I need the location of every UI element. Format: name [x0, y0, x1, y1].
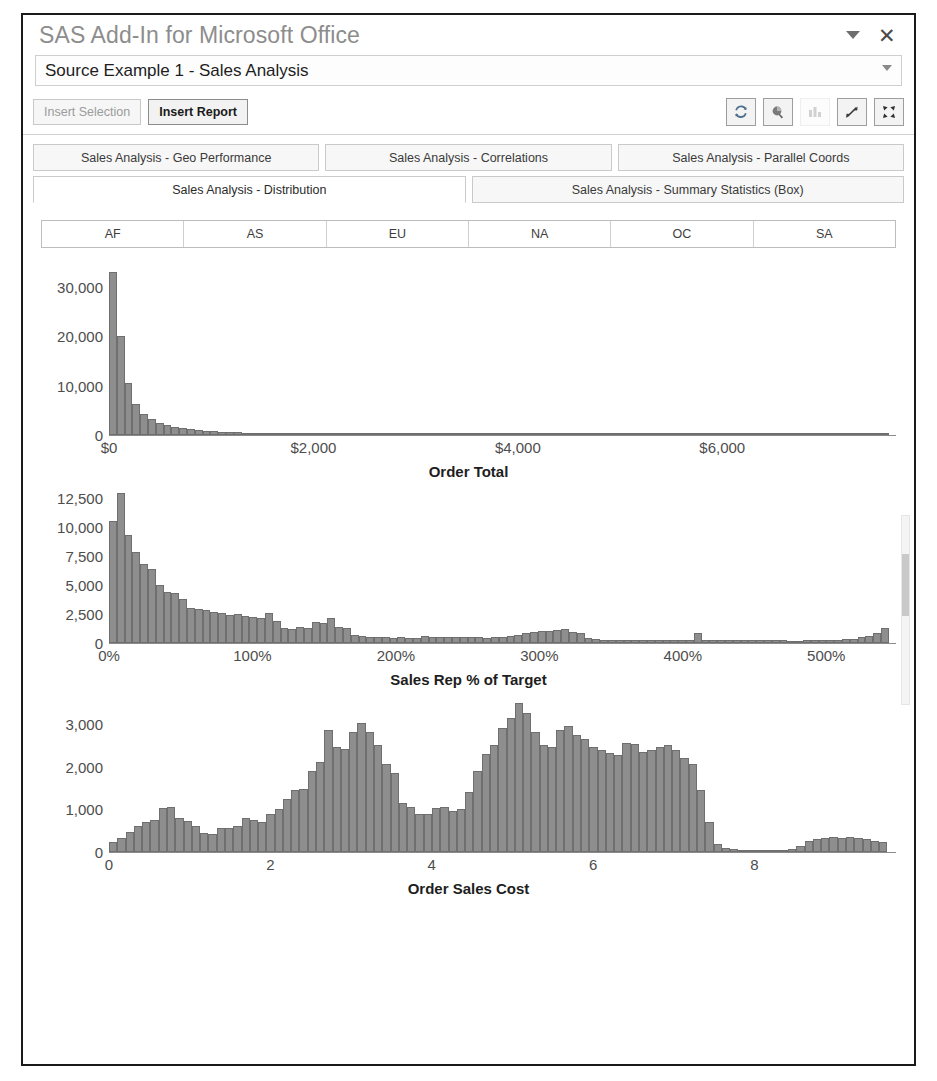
source-selector[interactable]: Source Example 1 - Sales Analysis	[35, 55, 902, 86]
x-axis-labels: 0%100%200%300%400%500%	[23, 647, 914, 669]
x-axis-title: Order Sales Cost	[23, 880, 914, 897]
histogram-bar	[225, 828, 233, 852]
tab-correlations[interactable]: Sales Analysis - Correlations	[325, 144, 611, 171]
region-button-eu[interactable]: EU	[327, 221, 469, 247]
region-button-oc[interactable]: OC	[611, 221, 753, 247]
histogram-bar	[296, 627, 304, 643]
histogram-bar	[631, 744, 639, 852]
y-axis-labels: 010,00020,00030,000	[23, 262, 109, 435]
histogram-bar	[514, 635, 522, 643]
histogram-bar	[299, 789, 307, 852]
insert-report-button[interactable]: Insert Report	[148, 99, 248, 125]
histogram-bar	[308, 771, 316, 852]
histogram-bar	[179, 428, 187, 435]
y-axis-tick: 30,000	[57, 278, 103, 295]
histogram-bar	[359, 636, 367, 643]
x-axis-tick: $2,000	[290, 439, 336, 456]
histogram-bar	[879, 842, 887, 852]
x-axis-tick: $6,000	[699, 439, 745, 456]
histogram-bar	[357, 723, 365, 852]
histogram-bar	[156, 423, 164, 435]
histogram-bar	[275, 809, 283, 852]
histogram-bar	[250, 820, 258, 852]
y-axis-tick: 7,500	[65, 547, 103, 564]
expand-diagonal-icon[interactable]	[837, 98, 867, 126]
histogram-bar	[171, 593, 179, 643]
histogram-bar	[266, 814, 274, 852]
sas-addin-window: SAS Add-In for Microsoft Office ✕ Source…	[21, 13, 916, 1066]
histogram-bar	[540, 745, 548, 852]
histogram-bar	[125, 535, 133, 643]
histogram-bar	[132, 404, 140, 435]
histogram-bar	[257, 618, 265, 643]
x-axis-tick: 100%	[233, 647, 271, 664]
tab-distribution[interactable]: Sales Analysis - Distribution	[33, 176, 466, 203]
close-icon[interactable]: ✕	[870, 20, 904, 50]
histogram-bar	[333, 747, 341, 852]
x-axis-tick: $0	[101, 439, 118, 456]
region-button-na[interactable]: NA	[469, 221, 611, 247]
histogram-bar	[349, 732, 357, 852]
histogram-bar	[639, 752, 647, 852]
histogram-bar	[714, 844, 722, 852]
histogram-bar	[366, 732, 374, 852]
chevron-down-icon[interactable]	[836, 20, 870, 50]
histogram-bar	[341, 749, 349, 852]
histogram-bar	[148, 569, 156, 643]
histogram-bar	[865, 636, 873, 643]
histogram-bar	[647, 750, 655, 852]
vertical-scrollbar[interactable]	[901, 515, 910, 705]
histogram-bar	[871, 841, 879, 852]
histogram-bar	[142, 822, 150, 852]
histogram-bar	[374, 745, 382, 852]
histogram-bar	[577, 633, 585, 643]
histogram-bar	[288, 629, 296, 643]
y-axis-labels: 02,5005,0007,50010,00012,500	[23, 486, 109, 643]
tab-summary-statistics-box[interactable]: Sales Analysis - Summary Statistics (Box…	[472, 176, 905, 203]
histogram-bar	[234, 614, 242, 643]
plot-area	[109, 262, 888, 435]
histogram-bar	[507, 636, 515, 643]
bar-chart-icon	[800, 98, 830, 126]
tab-geo-performance[interactable]: Sales Analysis - Geo Performance	[33, 144, 319, 171]
region-button-as[interactable]: AS	[184, 221, 326, 247]
fullscreen-icon[interactable]	[874, 98, 904, 126]
histogram-bar	[530, 632, 538, 643]
histogram-bar	[343, 628, 351, 643]
histogram-bar	[881, 628, 889, 643]
histogram-bar	[159, 808, 167, 852]
y-axis-tick: 2,000	[65, 758, 103, 775]
histogram-bar	[407, 807, 415, 852]
histogram-bar	[117, 493, 125, 643]
region-button-af[interactable]: AF	[42, 221, 184, 247]
histogram-bar	[522, 633, 530, 643]
histogram-bar	[208, 834, 216, 852]
histogram-bar	[689, 764, 697, 852]
histogram-bar	[507, 718, 515, 853]
tab-parallel-coords[interactable]: Sales Analysis - Parallel Coords	[618, 144, 904, 171]
insert-selection-button[interactable]: Insert Selection	[33, 99, 141, 125]
histogram-bar	[327, 618, 335, 643]
refresh-icon[interactable]	[726, 98, 756, 126]
histogram-bar	[854, 838, 862, 852]
filter-icon[interactable]	[763, 98, 793, 126]
plot-area	[109, 486, 888, 643]
y-axis-tick: 10,000	[57, 518, 103, 535]
histogram-bar	[829, 837, 837, 852]
scrollbar-thumb[interactable]	[902, 554, 909, 616]
histogram-bar	[351, 635, 359, 643]
histogram-bar	[175, 818, 183, 852]
histogram-bar	[598, 750, 606, 852]
tab-row-2: Sales Analysis - Distribution Sales Anal…	[33, 176, 904, 203]
x-axis-tick: 0	[105, 856, 113, 873]
histogram-bar	[109, 842, 117, 852]
region-button-sa[interactable]: SA	[754, 221, 895, 247]
histogram-bar	[457, 809, 465, 852]
histogram-bar	[589, 747, 597, 852]
histogram-bar	[432, 808, 440, 852]
histogram-bar	[813, 839, 821, 852]
histogram-bar	[569, 632, 577, 643]
chevron-down-icon	[882, 65, 892, 71]
x-axis-tick: 2	[266, 856, 274, 873]
tab-strip: Sales Analysis - Geo Performance Sales A…	[33, 144, 904, 203]
